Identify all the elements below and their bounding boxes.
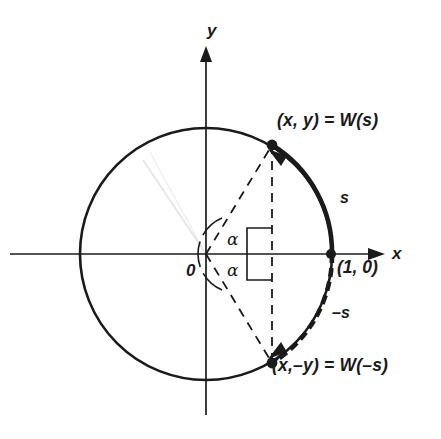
label-point-unit: (1, 0) (337, 259, 378, 277)
radius-segment-upper (206, 145, 272, 254)
figure-root: y x 0 (x, y) = W(s) (x,–y) = W(–s) (1, 0… (0, 0, 441, 439)
radius-segment-lower (206, 254, 272, 363)
x-axis-label: x (392, 245, 401, 262)
label-point-w-of-minus-s: (x,–y) = W(–s) (272, 357, 388, 375)
y-axis-arrowhead (200, 46, 212, 62)
point-marker-unit (326, 249, 336, 259)
scan-artifact-line (143, 160, 206, 254)
y-axis-label: y (207, 22, 216, 39)
label-arc-minus-s: –s (332, 305, 350, 321)
scan-artifact-line-2 (150, 152, 206, 254)
label-angle-alpha-upper: α (227, 231, 238, 248)
label-angle-alpha-lower: α (227, 262, 238, 279)
origin-label: 0 (186, 262, 195, 279)
label-arc-s: s (340, 190, 349, 206)
point-marker-w-of-s (267, 140, 278, 151)
label-point-w-of-s: (x, y) = W(s) (277, 112, 378, 130)
